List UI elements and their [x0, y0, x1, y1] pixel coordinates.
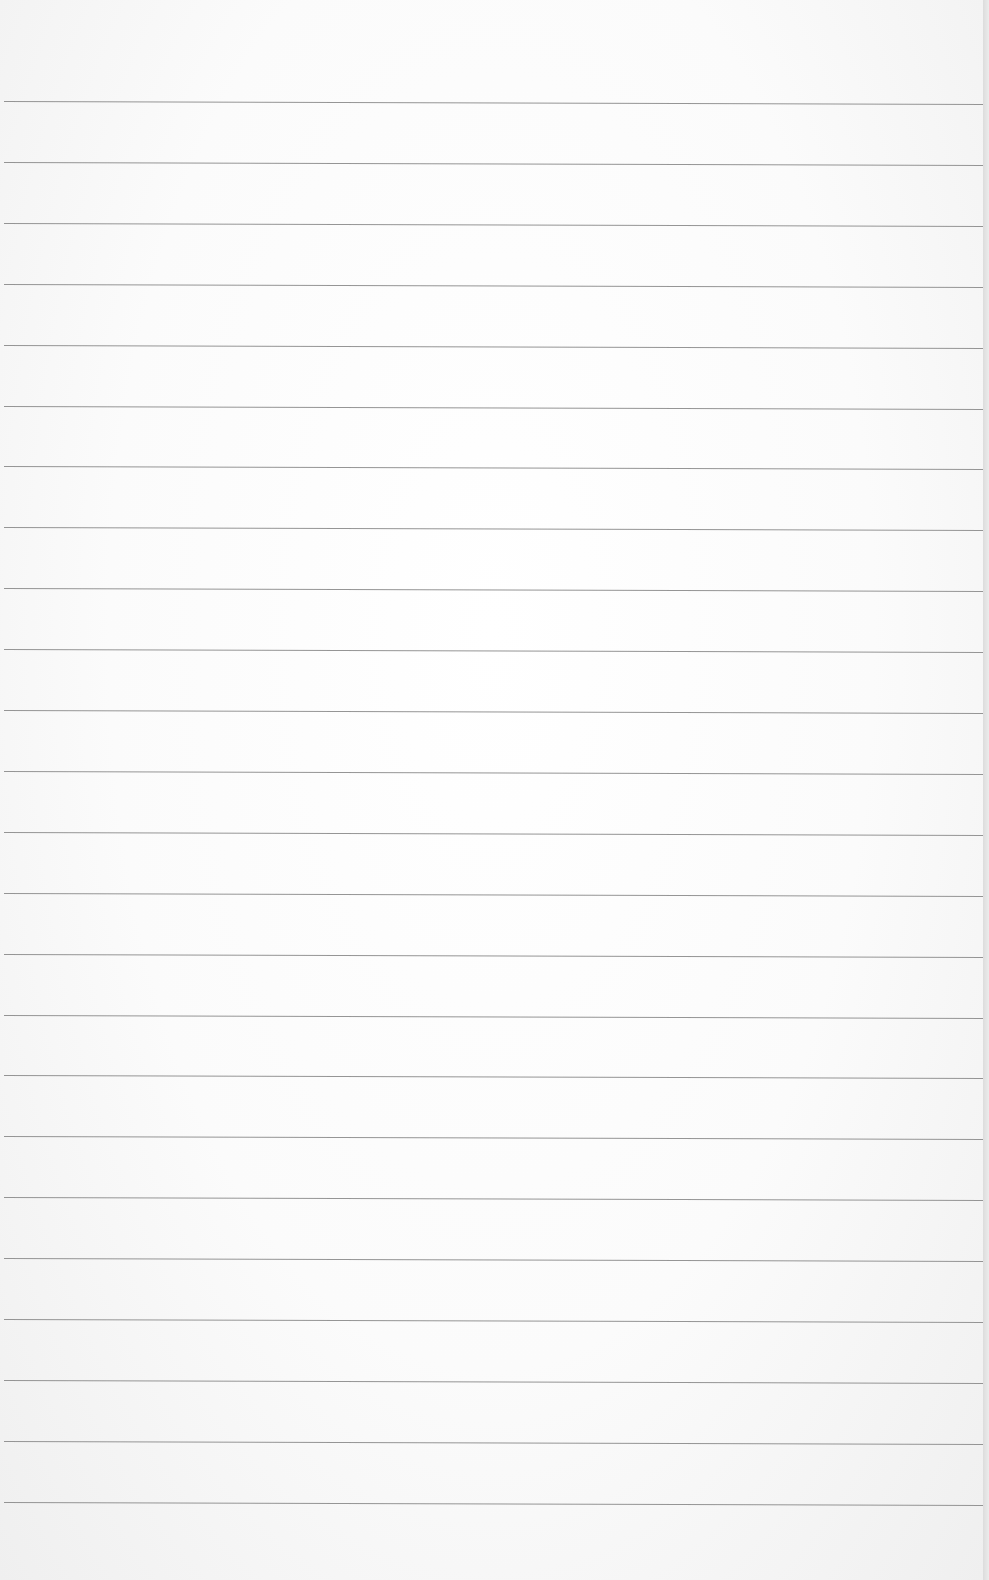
- ruled-line: [4, 406, 983, 410]
- ruled-line: [4, 710, 983, 714]
- ruled-line: [4, 1502, 983, 1506]
- ruled-line: [4, 1075, 983, 1079]
- ruled-line: [4, 832, 983, 836]
- ruled-line: [4, 101, 983, 105]
- ruled-line: [4, 345, 983, 349]
- ruled-line: [4, 1441, 983, 1445]
- ruled-line: [4, 1015, 983, 1019]
- ruled-line: [4, 588, 983, 592]
- ruled-line: [4, 527, 983, 531]
- lined-paper-sheet: [0, 0, 983, 1580]
- ruled-line: [4, 954, 983, 958]
- ruled-line: [4, 1380, 983, 1384]
- ruled-line: [4, 1319, 983, 1323]
- ruled-line: [4, 466, 983, 470]
- ruled-line: [4, 649, 983, 653]
- paper-edge: [983, 0, 989, 1580]
- ruled-line: [4, 893, 983, 897]
- ruled-line: [4, 771, 983, 775]
- ruled-line: [4, 1197, 983, 1201]
- ruled-line: [4, 162, 983, 166]
- ruled-line: [4, 1136, 983, 1140]
- ruled-line: [4, 284, 983, 288]
- ruled-line: [4, 223, 983, 227]
- ruled-line: [4, 1258, 983, 1262]
